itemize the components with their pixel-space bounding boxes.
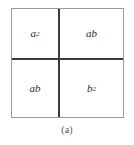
quadrant-top-right-base: ab [86, 28, 97, 39]
quadrant-bottom-right-base: b [87, 83, 93, 94]
quadrant-top-right: ab [60, 9, 123, 58]
quadrant-bottom-left: ab [12, 60, 58, 117]
quadrant-bottom-right: b2 [60, 60, 123, 117]
figure-caption: (a) [0, 124, 134, 135]
figure-container: a2 ab ab b2 (a) [0, 0, 134, 145]
quadrant-top-left: a2 [12, 9, 58, 58]
quadrant-bottom-left-base: ab [30, 83, 41, 94]
binomial-square-diagram: a2 ab ab b2 [11, 8, 124, 118]
